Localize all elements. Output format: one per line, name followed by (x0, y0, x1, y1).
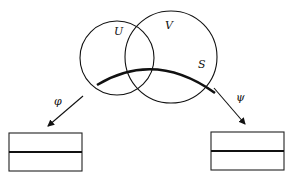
curve-s-label: S (198, 58, 206, 71)
left-target-box (9, 133, 82, 171)
map-phi-label: φ (54, 95, 62, 108)
map-psi-label: ψ (236, 91, 245, 104)
curve-s (97, 69, 215, 93)
right-target-box (211, 132, 284, 170)
set-v-label: V (165, 19, 174, 32)
set-u-label: U (114, 25, 124, 38)
chart-diagram: U V S φ ψ (0, 0, 293, 182)
